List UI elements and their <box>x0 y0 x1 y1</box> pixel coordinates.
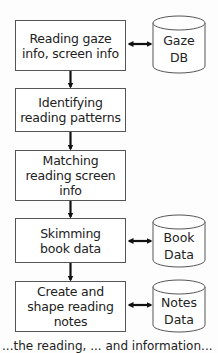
process-step-create-notes: Create and shape reading notes <box>15 281 126 332</box>
process-step-label: Matching reading screen info <box>25 153 115 198</box>
process-step-reading-gaze: Reading gaze info, screen info <box>15 20 126 71</box>
process-step-matching-screen-info: Matching reading screen info <box>15 150 126 201</box>
data-store-label-gaze-db: Gaze DB <box>152 32 206 66</box>
process-step-label: Create and shape reading notes <box>27 284 114 329</box>
process-step-identifying-patterns: Identifying reading patterns <box>15 88 126 132</box>
caption-cutoff: ...the reading, ... and information... <box>2 339 213 353</box>
data-store-label-book-data: Book Data <box>152 229 206 263</box>
process-step-skimming-book-data: Skimming book data <box>15 218 126 263</box>
data-store-label-notes-data: Notes Data <box>152 294 206 328</box>
process-step-label: Skimming book data <box>40 226 101 256</box>
process-step-label: Reading gaze info, screen info <box>22 31 119 61</box>
process-step-label: Identifying reading patterns <box>20 95 121 125</box>
